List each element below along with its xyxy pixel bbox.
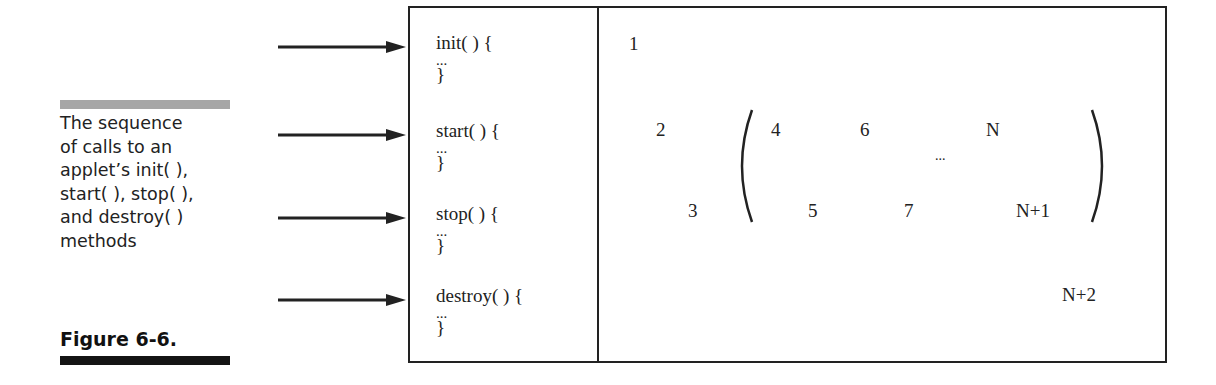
right-paren-icon [1088, 108, 1112, 224]
arrow-right-icon [278, 40, 406, 54]
figure-caption: The sequence of calls to an applet’s ini… [60, 112, 240, 253]
method-signature: start( ) { [436, 121, 500, 140]
sequence-step-4: 4 [771, 120, 781, 139]
method-signature: stop( ) { [436, 204, 499, 223]
method-start: start( ) { ... } [436, 121, 500, 172]
method-destroy: destroy( ) { ... } [436, 286, 523, 337]
left-paren-icon [732, 108, 756, 224]
sequence-step-5: 5 [808, 201, 818, 220]
method-body: ... [436, 308, 523, 319]
figure-label: Figure 6-6. [60, 328, 177, 350]
caption-line: and destroy( ) [60, 206, 240, 230]
sequence-step-3: 3 [688, 201, 698, 220]
caption-top-rule [60, 100, 230, 109]
sequence-ellipsis: ... [935, 146, 946, 165]
caption-line: methods [60, 230, 240, 254]
sequence-step-n-plus-1: N+1 [1016, 201, 1050, 220]
arrow-right-icon [278, 128, 406, 142]
method-signature: destroy( ) { [436, 286, 523, 305]
method-init: init( ) { ... } [436, 33, 493, 84]
sequence-step-n: N [986, 120, 1000, 139]
caption-bottom-rule [60, 356, 230, 365]
sequence-step-7: 7 [904, 201, 914, 220]
caption-line: of calls to an [60, 136, 240, 160]
caption-line: start( ), stop( ), [60, 183, 240, 207]
sequence-step-2: 2 [656, 120, 666, 139]
sequence-step-6: 6 [860, 120, 870, 139]
method-body: ... [436, 226, 499, 237]
method-body: ... [436, 143, 500, 154]
method-stop: stop( ) { ... } [436, 204, 499, 255]
method-close: } [436, 237, 499, 255]
arrow-right-icon [278, 293, 406, 307]
method-close: } [436, 66, 493, 84]
caption-line: The sequence [60, 112, 240, 136]
arrow-right-icon [278, 211, 406, 225]
sequence-step-n-plus-2: N+2 [1062, 285, 1096, 304]
sequence-step-1: 1 [629, 34, 639, 53]
caption-line: applet’s init( ), [60, 159, 240, 183]
column-divider [597, 6, 599, 363]
method-signature: init( ) { [436, 33, 493, 52]
method-close: } [436, 154, 500, 172]
method-close: } [436, 319, 523, 337]
